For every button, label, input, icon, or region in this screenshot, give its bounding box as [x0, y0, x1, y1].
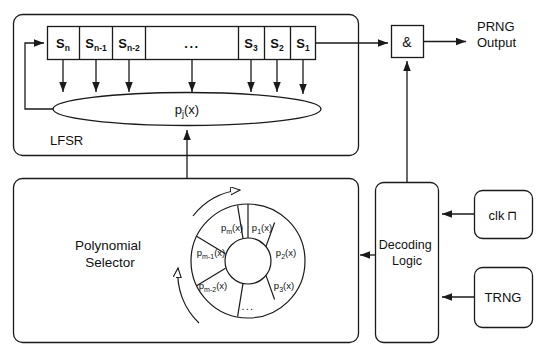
clk-pulse-icon: ⊓	[507, 208, 517, 223]
polynomial-selector-container	[14, 179, 359, 343]
prng-output-label: PRNG Output	[477, 19, 518, 50]
trng-label: TRNG	[485, 290, 522, 305]
clk-label: clk⊓	[489, 208, 518, 223]
and-gate-label: &	[402, 34, 412, 50]
wheel-sector-0-label: p1(x)	[252, 222, 272, 235]
diagram-canvas: Sn Sn-1 Sn-2 ... S3 S2 S1 pj(x) L	[0, 0, 546, 359]
lfsr-container-label: LFSR	[50, 133, 83, 148]
wheel-sector-1-label: p2(x)	[276, 247, 296, 260]
polynomial-wheel[interactable]: p1(x) p2(x) p3(x) ... pm-2(x) pm-1(x) pm…	[191, 204, 305, 318]
wheel-sector-2-label: p3(x)	[274, 280, 294, 293]
lfsr-cell-3-label: ...	[184, 36, 199, 51]
feedback-polynomial-label: pj(x)	[175, 102, 199, 119]
wheel-sector-6-label: pm(x)	[221, 222, 243, 235]
wheel-sector-3-label: ...	[242, 300, 255, 312]
